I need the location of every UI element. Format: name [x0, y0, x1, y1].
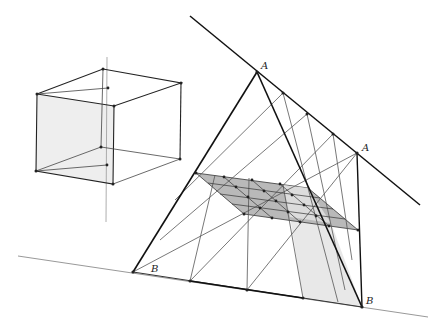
light-shaded-region — [290, 217, 362, 307]
label-apex-top: A — [260, 60, 268, 71]
label-base-left: B — [150, 263, 158, 274]
diagram-canvas: A A B B — [0, 0, 445, 335]
cube — [35, 57, 183, 222]
cube-axis-line — [106, 57, 107, 222]
label-apex-right: A — [361, 142, 369, 153]
label-base-right: B — [365, 295, 373, 306]
